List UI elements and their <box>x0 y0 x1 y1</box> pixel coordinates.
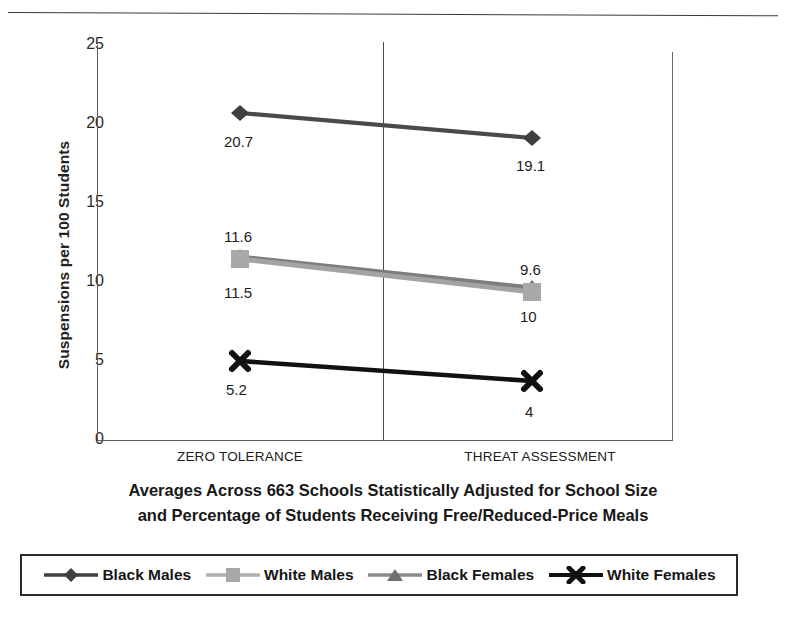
plot-area <box>97 45 673 441</box>
data-label-black-females-right: 9.6 <box>520 261 541 278</box>
triangle-marker-icon <box>366 566 424 584</box>
legend-label-white-females: White Females <box>607 566 716 584</box>
data-label-white-males-left: 11.5 <box>224 284 252 301</box>
top-divider-rule <box>8 12 778 16</box>
x-axis-label-zero-tolerance: ZERO TOLERANCE <box>165 449 315 464</box>
data-label-black-females-left: 11.6 <box>224 228 252 245</box>
square-marker-icon <box>204 566 262 584</box>
data-label-white-females-left: 5.2 <box>226 381 247 398</box>
y-axis-line <box>97 45 98 441</box>
x-axis-line <box>97 440 673 441</box>
diamond-marker-icon <box>42 566 100 584</box>
data-label-black-males-left: 20.7 <box>224 133 253 150</box>
legend-label-black-males: Black Males <box>102 566 191 584</box>
caption-line-1: Averages Across 663 Schools Statisticall… <box>0 478 786 503</box>
legend-item-white-females[interactable]: White Females <box>547 566 716 584</box>
x-marker-icon <box>547 566 605 584</box>
data-label-white-females-right: 4 <box>525 403 533 420</box>
category-divider-line <box>383 42 384 441</box>
legend-item-black-males[interactable]: Black Males <box>42 566 191 584</box>
chart-legend: Black Males White Males Black Females <box>20 554 738 596</box>
x-axis-label-threat-assessment: THREAT ASSESSMENT <box>450 449 630 464</box>
legend-label-white-males: White Males <box>264 566 354 584</box>
caption-line-2: and Percentage of Students Receiving Fre… <box>0 503 786 528</box>
data-label-black-males-right: 19.1 <box>516 157 545 174</box>
legend-item-white-males[interactable]: White Males <box>204 566 354 584</box>
legend-item-black-females[interactable]: Black Females <box>366 566 534 584</box>
data-label-white-males-right: 10 <box>520 308 537 325</box>
chart-page: Suspensions per 100 Students 25 20 15 10… <box>0 0 786 629</box>
legend-label-black-females: Black Females <box>426 566 534 584</box>
chart-caption: Averages Across 663 Schools Statisticall… <box>0 478 786 528</box>
plot-right-border <box>672 52 673 441</box>
